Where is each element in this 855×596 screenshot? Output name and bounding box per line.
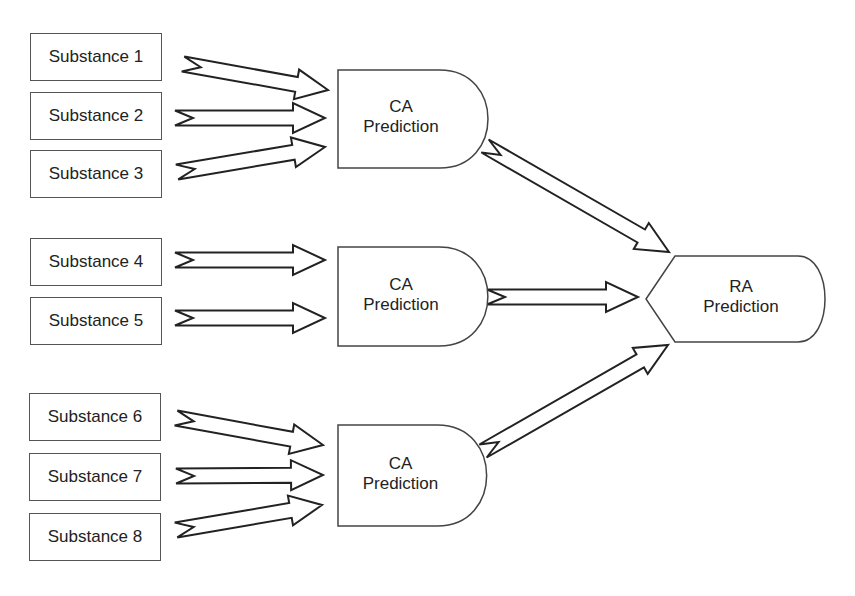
block-arrow-icon [176, 460, 323, 490]
ca-prediction-shape-1 [338, 70, 488, 168]
substance-box-6: Substance 6 [29, 393, 161, 441]
substance-box-1: Substance 1 [30, 33, 162, 81]
ra-prediction-shape [646, 256, 825, 342]
block-arrow-icon [175, 303, 325, 333]
substance-box-8: Substance 8 [29, 513, 161, 561]
substance-label: Substance 1 [49, 47, 144, 67]
substance-label: Substance 4 [49, 252, 144, 272]
block-arrow-icon [479, 345, 668, 458]
ca-prediction-shape-3 [338, 425, 487, 526]
ca-prediction-shape-2 [338, 247, 488, 346]
substance-label: Substance 2 [49, 106, 144, 126]
substance-box-3: Substance 3 [30, 150, 162, 198]
substance-box-7: Substance 7 [29, 453, 161, 501]
substance-label: Substance 5 [49, 311, 144, 331]
substance-box-5: Substance 5 [30, 297, 162, 345]
block-arrow-icon [175, 103, 325, 133]
diagram-canvas: Substance 1 Substance 2 Substance 3 Subs… [0, 0, 855, 596]
substance-label: Substance 3 [49, 164, 144, 184]
block-arrow-icon [182, 57, 328, 100]
block-arrow-icon [176, 138, 325, 180]
substance-label: Substance 6 [48, 407, 143, 427]
block-arrow-icon [487, 282, 638, 312]
substance-label: Substance 8 [48, 527, 143, 547]
substance-box-2: Substance 2 [30, 92, 162, 140]
substance-box-4: Substance 4 [30, 238, 162, 286]
block-arrow-icon [175, 245, 325, 275]
block-arrow-icon [175, 411, 323, 454]
block-arrow-icon [175, 496, 322, 538]
block-arrow-icon [481, 140, 669, 253]
substance-label: Substance 7 [48, 467, 143, 487]
